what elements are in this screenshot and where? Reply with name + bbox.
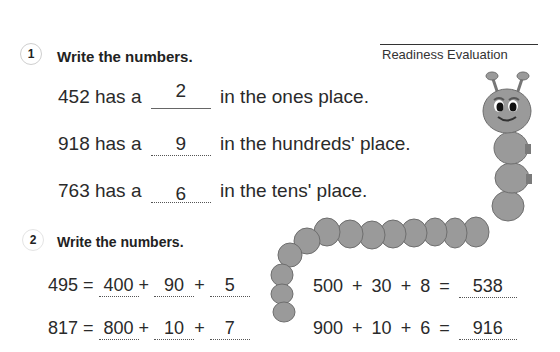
- caterpillar-illustration: [0, 0, 560, 352]
